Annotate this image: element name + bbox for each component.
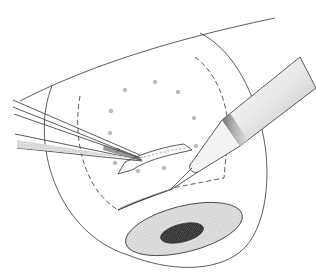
blade-handle	[171, 57, 316, 189]
eyelid-contour	[20, 18, 275, 101]
surgical-illustration	[0, 0, 316, 275]
forceps	[13, 100, 142, 161]
scleral-flap	[118, 144, 192, 174]
incision-groove	[118, 189, 172, 210]
